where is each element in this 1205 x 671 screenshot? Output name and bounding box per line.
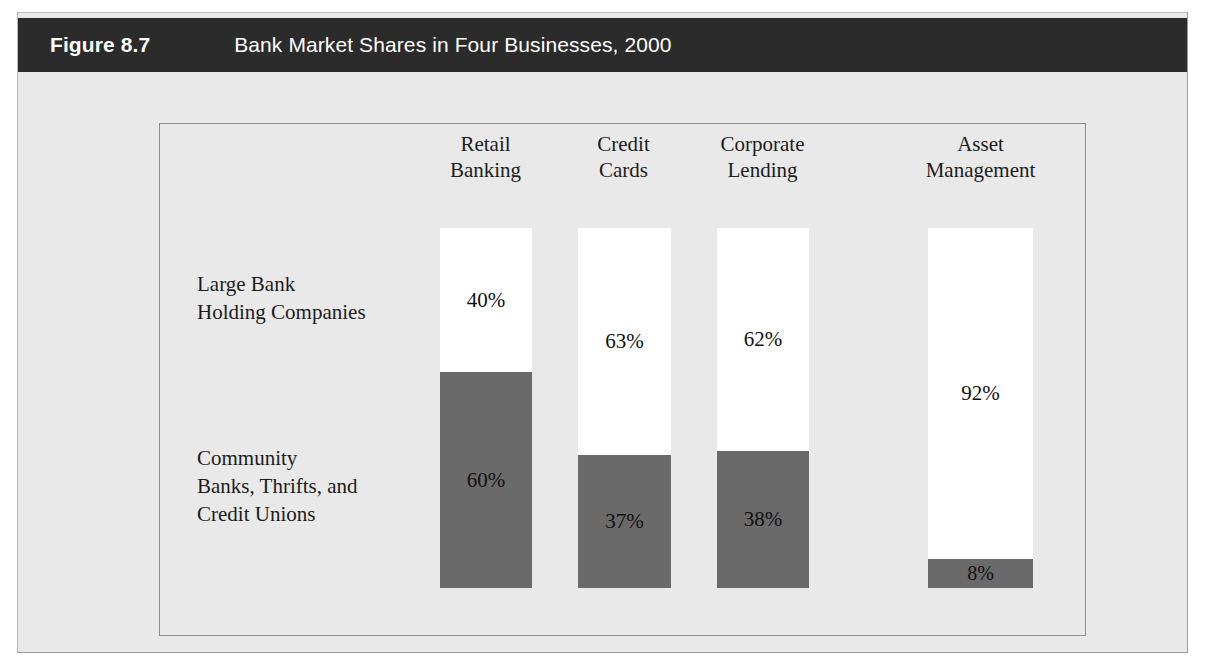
- bar-segment-large-bank-asset-management: 92%: [928, 228, 1033, 559]
- series-label-community-banks-thrifts-credit-unions: Community Banks, Thrifts, and Credit Uni…: [197, 444, 358, 528]
- figure-header-bar: Figure 8.7 Bank Market Shares in Four Bu…: [18, 18, 1187, 72]
- bar-column-credit-cards: 63% 37%: [578, 228, 671, 588]
- series-label-large-bank-holding-companies: Large Bank Holding Companies: [197, 270, 366, 326]
- figure-number: Figure 8.7: [50, 33, 150, 57]
- bar-segment-community-corporate-lending: 38%: [717, 451, 809, 588]
- bar-segment-community-asset-management: 8%: [928, 559, 1033, 588]
- bar-column-corporate-lending: 62% 38%: [717, 228, 809, 588]
- column-header-asset-management: Asset Management: [903, 131, 1058, 183]
- bar-segment-community-retail-banking: 60%: [440, 372, 532, 588]
- bar-column-asset-management: 92% 8%: [928, 228, 1033, 588]
- bar-segment-large-bank-retail-banking: 40%: [440, 228, 532, 372]
- bar-column-retail-banking: 40% 60%: [440, 228, 532, 588]
- bar-segment-large-bank-corporate-lending: 62%: [717, 228, 809, 451]
- bar-segment-large-bank-credit-cards: 63%: [578, 228, 671, 455]
- column-header-retail-banking: Retail Banking: [420, 131, 551, 183]
- column-header-credit-cards: Credit Cards: [558, 131, 689, 183]
- column-header-corporate-lending: Corporate Lending: [692, 131, 833, 183]
- figure-title: Bank Market Shares in Four Businesses, 2…: [234, 33, 671, 57]
- bar-segment-community-credit-cards: 37%: [578, 455, 671, 588]
